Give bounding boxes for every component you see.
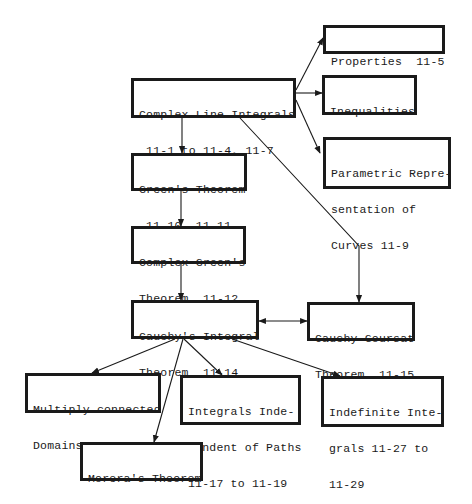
node-multiply-connected-domains: Multiply-connected Domains 11-16 <box>25 373 161 413</box>
node-label-line: grals 11-27 to <box>329 443 436 455</box>
node-complex-greens-theorem: Complex Green's Theorem 11-12 <box>131 226 246 264</box>
node-label-line: Inequalities <box>330 106 409 118</box>
node-cauchy-goursat-theorem: Cauchy-Goursat Theorem 11-15 <box>307 302 415 341</box>
node-label-line: pendent of Paths <box>188 442 293 454</box>
edge-arrow-complex_line_integrals-to-properties <box>296 38 323 90</box>
node-label-line: Multiply-connected <box>33 404 153 416</box>
node-label-line: Integrals Inde- <box>188 406 293 418</box>
node-label-line: Morera's Theorem <box>88 473 195 485</box>
node-greens-theorem: Green's Theorem 11-10, 11-11 <box>131 153 247 191</box>
node-label-line: Properties 11-5 <box>331 56 437 68</box>
node-integrals-independent-of-paths: Integrals Inde- pendent of Paths 11-17 t… <box>180 375 301 425</box>
node-label-line: Complex Green's <box>139 257 238 269</box>
node-complex-line-integrals: Complex Line Integrals 11-1 to 11-4, 11-… <box>131 78 296 118</box>
node-inequalities: Inequalities 11-6, 11-8 <box>322 75 417 115</box>
node-parametric-representation: Parametric Repre- sentation of Curves 11… <box>323 137 451 189</box>
node-label-line: Complex Line Integrals <box>139 109 288 121</box>
node-label-line: Curves 11-9 <box>331 240 443 252</box>
node-label-line: 11-17 to 11-19 <box>188 478 293 490</box>
node-properties: Properties 11-5 <box>323 25 445 54</box>
node-label-line: Green's Theorem <box>139 184 239 196</box>
node-label-line: Indefinite Inte- <box>329 407 436 419</box>
node-label-line: 11-29 <box>329 479 436 491</box>
node-cauchy-integral-theorem: Cauchy's Integral Theorem 11-14 <box>131 300 259 339</box>
node-label-line: Parametric Repre- <box>331 168 443 180</box>
edge-arrow-complex_line_integrals-to-parametric <box>296 100 320 153</box>
concept-diagram: Complex Line Integrals 11-1 to 11-4, 11-… <box>0 0 472 504</box>
node-label-line: Cauchy's Integral <box>139 331 251 343</box>
node-moreras-theorem: Morera's Theorem 11-22 <box>80 442 203 481</box>
node-indefinite-integrals: Indefinite Inte- grals 11-27 to 11-29 <box>321 376 444 427</box>
node-label-line: Cauchy-Goursat <box>315 333 407 345</box>
node-label-line: sentation of <box>331 204 443 216</box>
